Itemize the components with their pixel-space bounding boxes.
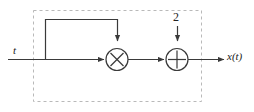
gain-constant-label: 2 xyxy=(173,11,179,23)
diagram-svg xyxy=(0,0,254,112)
input-signal-label: t xyxy=(13,45,16,56)
feedback-path xyxy=(46,20,118,60)
block-diagram-canvas: t 2 x(t) xyxy=(0,0,254,112)
output-signal-label: x(t) xyxy=(227,51,242,62)
